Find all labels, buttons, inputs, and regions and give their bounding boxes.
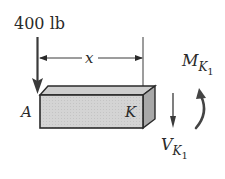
beam-segment: [40, 86, 155, 128]
beam-fbd-diagram: 400 lb x A K VK1 MK1: [0, 0, 225, 179]
load-label: 400 lb: [14, 14, 65, 33]
dimension-label: x: [85, 49, 94, 67]
beam-top-face: [40, 86, 155, 95]
shear-arrow-icon: [170, 93, 176, 128]
point-a-label: A: [19, 103, 32, 121]
moment-arrow-icon: [196, 88, 206, 128]
moment-label: MK1: [181, 51, 214, 77]
load-arrow-icon: [32, 37, 43, 94]
shear-label: VK1: [161, 135, 188, 161]
point-k-label: K: [124, 103, 137, 121]
